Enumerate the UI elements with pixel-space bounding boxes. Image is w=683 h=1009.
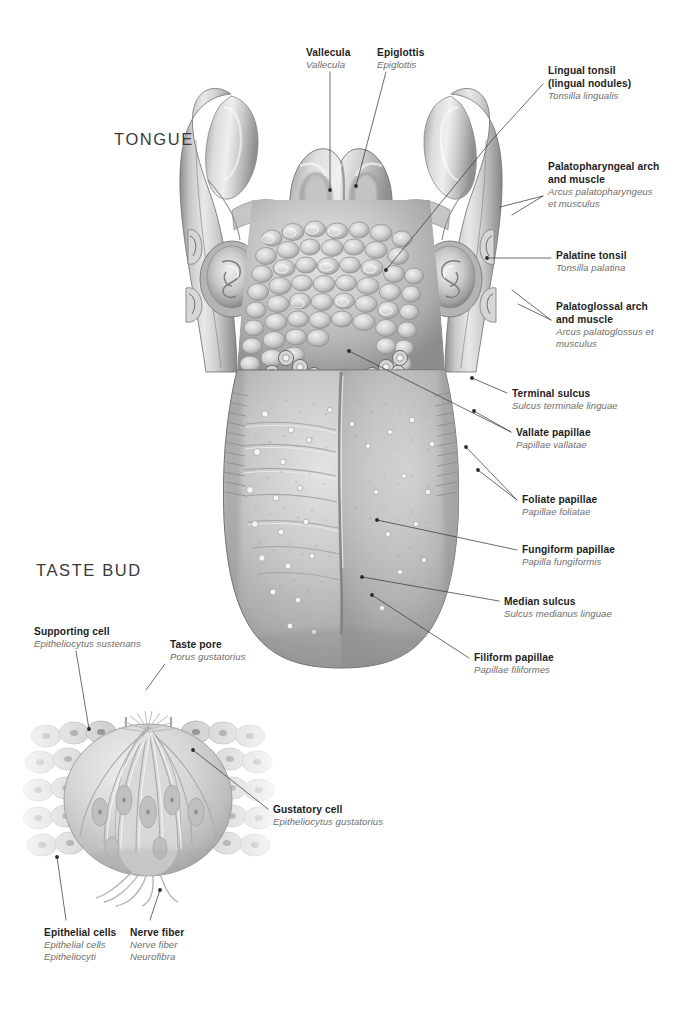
- arch-slivers: [186, 230, 496, 323]
- label-terminal-sulcus-la: Sulcus terminale linguae: [512, 400, 618, 412]
- label-filiform-papillae-la: Papillae filiformes: [474, 664, 554, 676]
- label-vallate-papillae: Vallate papillae Papillae vallatae: [516, 426, 591, 451]
- label-taste-pore-la: Porus gustatorius: [170, 651, 246, 663]
- label-foliate-papillae: Foliate papillae Papillae foliatae: [522, 493, 597, 518]
- label-palatopharyngeal-arch-la-2: et musculus: [548, 198, 659, 210]
- label-vallate-papillae-la: Papillae vallatae: [516, 439, 591, 451]
- leader-foliate-papillae-2: [466, 447, 517, 500]
- label-lingual-tonsil-la: Tonsilla lingualis: [548, 90, 631, 102]
- label-vallecula-la: Vallecula: [306, 59, 351, 71]
- label-gustatory-cell: Gustatory cell Epitheliocytus gustatoriu…: [273, 803, 383, 828]
- tongue-section-heading: TONGUE: [114, 130, 194, 149]
- tongue-body: [223, 366, 462, 681]
- microvilli: [118, 711, 179, 732]
- left-palatine-tonsil: [200, 241, 264, 317]
- lingual-nodules: [240, 221, 424, 372]
- leader-epiglottis: [356, 72, 386, 186]
- label-palatine-tonsil-en: Palatine tonsil: [556, 249, 627, 262]
- lingual-tonsil-root: [237, 200, 445, 372]
- label-nerve-fiber-la-2: Neurofibra: [130, 951, 184, 963]
- label-terminal-sulcus: Terminal sulcus Sulcus terminale linguae: [512, 387, 618, 412]
- leader-palatoglossal-arch: [512, 290, 551, 320]
- label-palatine-tonsil: Palatine tonsil Tonsilla palatina: [556, 249, 627, 274]
- taste-bud-body: [64, 711, 232, 888]
- label-foliate-papillae-la: Papillae foliatae: [522, 506, 597, 518]
- label-vallecula: Vallecula Vallecula: [306, 46, 351, 71]
- leader-median-sulcus: [362, 577, 499, 601]
- label-palatopharyngeal-arch-en-2: and muscle: [548, 173, 659, 186]
- label-fungiform-papillae-en: Fungiform papillae: [522, 543, 615, 556]
- leader-vallate-papillae: [474, 411, 511, 432]
- filiform-texture: [253, 399, 429, 651]
- right-palatine-tonsil: [418, 241, 482, 317]
- label-palatoglossal-arch-la-1: Arcus palatoglossus et: [556, 326, 654, 338]
- leader-palatopharyngeal-arch-2: [512, 196, 543, 215]
- vallate-papillae-row: [265, 350, 407, 396]
- leader-dots: [55, 184, 489, 892]
- epiglottis-shape: [290, 149, 392, 236]
- label-gustatory-cell-la: Epitheliocytus gustatorius: [273, 816, 383, 828]
- taste-pore-notch: [126, 717, 171, 730]
- label-nerve-fiber-la-1: Nerve fiber: [130, 939, 184, 951]
- label-foliate-papillae-en: Foliate papillae: [522, 493, 597, 506]
- label-filiform-papillae-en: Filiform papillae: [474, 651, 554, 664]
- right-pharyngeal-fold: [424, 88, 502, 372]
- leader-nerve-fiber: [150, 890, 160, 920]
- foliate-papillae: [224, 392, 458, 496]
- label-palatopharyngeal-arch-la-1: Arcus palatopharyngeus: [548, 186, 659, 198]
- label-supporting-cell: Supporting cell Epitheliocytus sustenans: [34, 625, 141, 650]
- label-nerve-fiber: Nerve fiber Nerve fiber Neurofibra: [130, 926, 184, 964]
- label-supporting-cell-la: Epitheliocytus sustenans: [34, 638, 141, 650]
- label-epithelial-cells-la-1: Epithelial cells: [44, 939, 116, 951]
- leader-terminal-sulcus: [472, 378, 507, 393]
- label-palatoglossal-arch-en-1: Palatoglossal arch: [556, 300, 654, 313]
- anatomy-plate: TONGUE TASTE BUD Vallecula Vallecula Epi…: [0, 0, 683, 1009]
- taste-bud-illustration: [18, 711, 278, 906]
- leader-epithelial-cells: [57, 857, 66, 920]
- label-vallate-papillae-en: Vallate papillae: [516, 426, 591, 439]
- label-epiglottis: Epiglottis Epiglottis: [377, 46, 424, 71]
- label-palatoglossal-arch-la-2: musculus: [556, 338, 654, 350]
- label-median-sulcus: Median sulcus Sulcus medianus linguae: [504, 595, 612, 620]
- leader-supporting-cell: [76, 651, 89, 729]
- label-lingual-tonsil-en-1: Lingual tonsil: [548, 64, 631, 77]
- label-vallecula-en: Vallecula: [306, 46, 351, 59]
- label-fungiform-papillae-la: Papilla fungiformis: [522, 556, 615, 568]
- leader-palatopharyngeal-arch: [500, 196, 543, 207]
- leader-vallate-papillae-2: [349, 351, 511, 432]
- tongue-illustration: [180, 88, 502, 681]
- label-palatoglossal-arch: Palatoglossal arch and muscle Arcus pala…: [556, 300, 654, 351]
- label-epithelial-cells-en: Epithelial cells: [44, 926, 116, 939]
- label-epiglottis-la: Epiglottis: [377, 59, 424, 71]
- leader-taste-pore: [146, 664, 165, 690]
- epithelial-cells-left: [23, 721, 116, 856]
- label-palatopharyngeal-arch-en-1: Palatopharyngeal arch: [548, 160, 659, 173]
- label-lingual-tonsil-en-2: (lingual nodules): [548, 77, 631, 90]
- label-terminal-sulcus-en: Terminal sulcus: [512, 387, 618, 400]
- label-palatopharyngeal-arch: Palatopharyngeal arch and muscle Arcus p…: [548, 160, 659, 211]
- label-palatine-tonsil-la: Tonsilla palatina: [556, 262, 627, 274]
- label-fungiform-papillae: Fungiform papillae Papilla fungiformis: [522, 543, 615, 568]
- nerve-fibers: [96, 872, 178, 906]
- leader-palatoglossal-arch-2: [518, 304, 551, 320]
- leader-foliate-papillae: [478, 470, 517, 500]
- label-supporting-cell-en: Supporting cell: [34, 625, 141, 638]
- epithelial-cells-right: [181, 721, 274, 856]
- label-epithelial-cells-la-2: Epitheliocyti: [44, 951, 116, 963]
- nerve-fibers-highlight: [98, 872, 148, 906]
- leader-filiform-papillae: [372, 595, 469, 658]
- fungiform-papillae: [247, 407, 435, 634]
- label-median-sulcus-la: Sulcus medianus linguae: [504, 608, 612, 620]
- leader-gustatory-cell: [193, 750, 268, 809]
- label-median-sulcus-en: Median sulcus: [504, 595, 612, 608]
- leader-fungiform-papillae: [377, 520, 517, 550]
- leader-lingual-tonsil: [386, 84, 543, 270]
- palatine-arches: [208, 180, 474, 240]
- label-taste-pore-en: Taste pore: [170, 638, 246, 651]
- label-gustatory-cell-en: Gustatory cell: [273, 803, 383, 816]
- label-nerve-fiber-en: Nerve fiber: [130, 926, 184, 939]
- taste-bud-section-heading: TASTE BUD: [36, 561, 142, 580]
- epithelium-sheet: [18, 712, 278, 864]
- label-taste-pore: Taste pore Porus gustatorius: [170, 638, 246, 663]
- label-epiglottis-en: Epiglottis: [377, 46, 424, 59]
